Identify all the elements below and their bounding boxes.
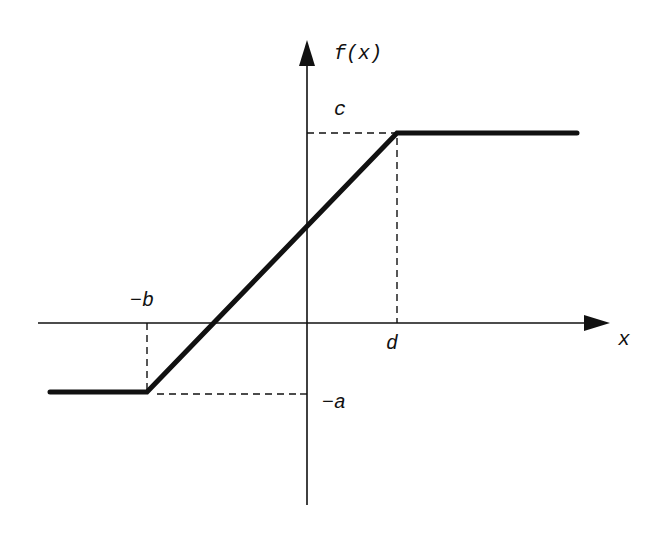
x-axis-arrow-icon xyxy=(584,315,610,331)
label-neg-a: −a xyxy=(322,393,346,413)
y-axis xyxy=(299,40,315,505)
x-axis-label: x xyxy=(618,330,630,350)
x-axis xyxy=(38,315,610,331)
label-neg-b: −b xyxy=(130,291,154,311)
y-axis-label: f(x) xyxy=(334,44,382,64)
y-axis-arrow-icon xyxy=(299,40,315,66)
diagram-canvas xyxy=(0,0,667,539)
label-d: d xyxy=(386,334,398,354)
label-c: c xyxy=(334,100,346,120)
function-curve xyxy=(50,133,577,392)
